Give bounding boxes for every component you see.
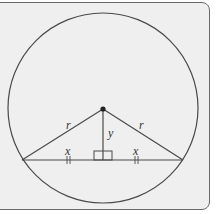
circle-chord-diagram: r r y x x [0, 0, 217, 214]
label-radius-right: r [139, 118, 144, 132]
label-height: y [107, 126, 114, 140]
label-half-chord-right: x [132, 144, 139, 158]
label-half-chord-left: x [64, 144, 71, 158]
center-point [100, 106, 105, 111]
radius-left [22, 109, 103, 160]
label-radius-left: r [66, 118, 71, 132]
radius-right [103, 109, 183, 160]
